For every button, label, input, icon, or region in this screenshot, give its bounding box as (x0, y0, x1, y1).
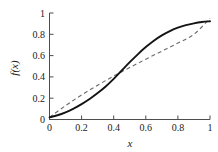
y-tick-label-2: 0.4 (33, 71, 46, 82)
x-tick-label-1: 0.2 (75, 122, 88, 133)
y-axis-title: f(x) (8, 60, 21, 76)
y-tick-label-5: 1 (40, 8, 45, 19)
x-tick-label-2: 0.4 (107, 122, 120, 133)
x-tick-label-5: 1 (208, 122, 213, 133)
x-tick-label-0: 0 (47, 122, 52, 133)
y-tick-label-1: 0.2 (33, 93, 46, 104)
x-axis-title: x (127, 137, 133, 149)
x-tick-label-4: 0.8 (172, 122, 185, 133)
plot-canvas: 0 0.2 0.4 0.6 0.8 1 0 0.2 0.4 0.6 0.8 1 … (0, 0, 218, 152)
y-tick-label-4: 0.8 (33, 29, 46, 40)
y-tick-label-0: 0 (40, 114, 45, 125)
chart-figure: 0 0.2 0.4 0.6 0.8 1 0 0.2 0.4 0.6 0.8 1 … (0, 0, 218, 152)
x-tick-label-3: 0.6 (140, 122, 153, 133)
y-tick-label-3: 0.6 (33, 50, 46, 61)
